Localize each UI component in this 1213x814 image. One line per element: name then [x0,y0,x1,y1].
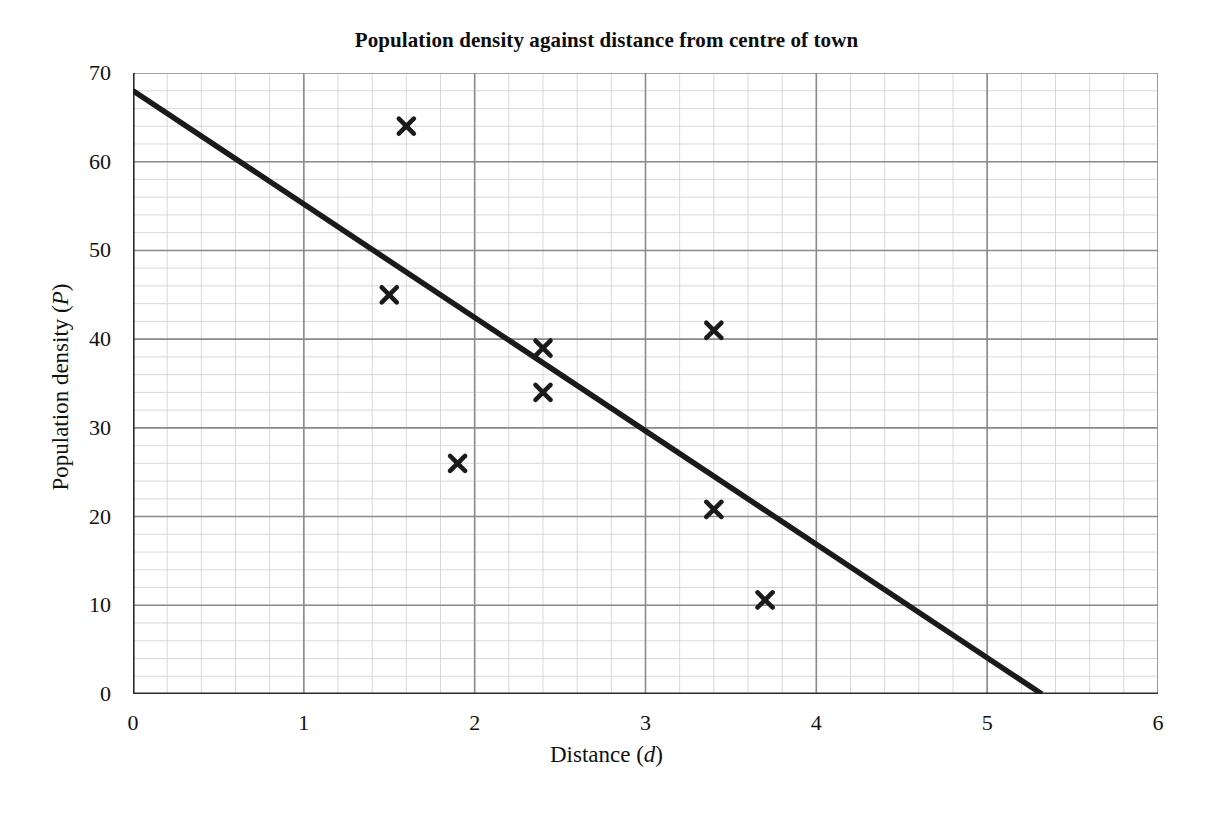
data-point-marker [536,385,551,400]
x-axis-variable: d [644,742,656,767]
x-tick-label: 0 [128,710,139,736]
plot-area [133,73,1158,694]
x-tick-label: 6 [1153,710,1164,736]
chart-title: Population density against distance from… [0,28,1213,53]
data-point-marker [382,287,397,302]
x-tick-label: 1 [298,710,309,736]
x-tick-label: 5 [982,710,993,736]
y-axis-title-text: Population density ( [48,305,73,490]
y-axis-title-close: ) [48,284,73,292]
data-point-marker [536,341,551,356]
data-point-marker [758,592,773,607]
x-tick-label: 2 [469,710,480,736]
chart-figure: Population density against distance from… [0,0,1213,814]
data-point-marker [706,323,721,338]
data-point-marker [399,119,414,134]
data-point-marker [450,456,465,471]
x-axis-title: Distance (d) [0,742,1213,768]
y-axis-title: Population density (P) [48,77,74,697]
x-tick-label: 3 [640,710,651,736]
y-axis-variable: P [48,291,73,305]
data-layer [133,73,1158,694]
x-axis-title-text: Distance ( [550,742,644,767]
data-point-marker [706,502,721,517]
x-axis-title-close: ) [655,742,663,767]
x-tick-label: 4 [811,710,822,736]
